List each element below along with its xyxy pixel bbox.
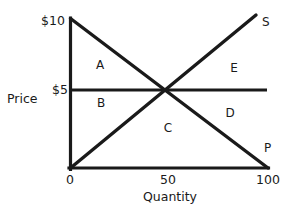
x-axis-tick-100: 100 xyxy=(256,174,280,187)
region-label-a: A xyxy=(96,59,104,71)
supply-curve-label: S xyxy=(262,16,270,28)
x-axis-tick-50: 50 xyxy=(160,174,176,187)
x-axis-title: Quantity xyxy=(143,191,197,204)
region-label-c: C xyxy=(164,122,172,134)
region-label-e: E xyxy=(230,62,238,74)
supply-demand-chart: $10 $5 Price 0 50 100 Quantity S P A B C… xyxy=(0,0,293,211)
chart-canvas xyxy=(0,0,293,211)
y-axis-tick-10: $10 xyxy=(41,15,65,28)
region-label-d: D xyxy=(225,107,234,119)
y-axis-title: Price xyxy=(7,93,38,106)
demand-curve-label: P xyxy=(264,142,271,154)
y-axis-tick-5: $5 xyxy=(52,84,68,97)
x-axis-tick-0: 0 xyxy=(66,174,74,187)
region-label-b: B xyxy=(97,97,105,109)
